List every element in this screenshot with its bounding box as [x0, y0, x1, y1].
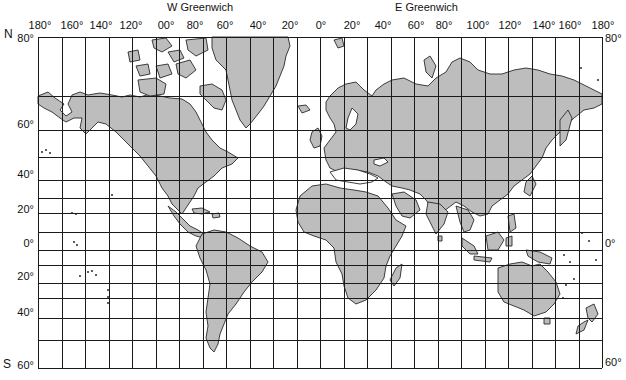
new-zealand-north [586, 304, 598, 322]
arabian-peninsula [392, 192, 420, 218]
arctic-island-7 [186, 38, 208, 56]
africa [296, 184, 406, 304]
japan [524, 176, 536, 196]
arctic-island-1 [152, 38, 172, 52]
novaya-zemlya [424, 56, 436, 78]
new-guinea [526, 250, 552, 264]
world-map [0, 0, 626, 380]
arctic-island-3 [128, 50, 140, 62]
victoria-island [138, 78, 166, 96]
new-zealand-south [576, 320, 588, 334]
svalbard [334, 38, 344, 48]
arctic-island-4 [136, 64, 150, 76]
north-america [38, 92, 238, 214]
arctic-island-2 [168, 50, 184, 62]
south-america [196, 230, 268, 352]
borneo [486, 232, 504, 250]
australia [498, 262, 560, 316]
sumatra [462, 238, 478, 254]
java [474, 256, 492, 262]
philippines [508, 214, 516, 232]
iceland [298, 105, 310, 113]
arctic-island-5 [156, 64, 172, 78]
